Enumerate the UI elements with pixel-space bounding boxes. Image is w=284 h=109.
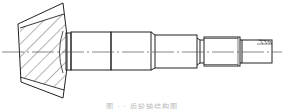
bevel-gear bbox=[18, 3, 67, 98]
shaft bbox=[66, 32, 272, 70]
shoulder-section bbox=[155, 35, 197, 68]
journal-1 bbox=[71, 32, 111, 70]
figure-caption: 图 · · 齿轮轴结构图 bbox=[0, 101, 284, 109]
end-section bbox=[242, 40, 272, 63]
step-chamfer-1 bbox=[151, 32, 155, 35]
relief-groove bbox=[197, 38, 204, 40]
gear-shaft-drawing bbox=[0, 0, 284, 109]
step-chamfer-1b bbox=[151, 68, 155, 70]
end-flat-marking bbox=[257, 40, 272, 44]
relief-groove-b bbox=[197, 63, 204, 65]
journal-2 bbox=[111, 32, 151, 70]
thread-section bbox=[204, 37, 240, 66]
